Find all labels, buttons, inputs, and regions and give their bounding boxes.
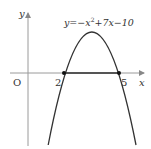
y-axis-label: y: [18, 8, 25, 19]
origin-label: O: [13, 77, 21, 88]
x-axis-label: x: [139, 77, 145, 88]
equation-label: y=−x2+7x−10: [63, 16, 134, 28]
root-label-2: 2: [55, 77, 61, 88]
root-point-2: [62, 71, 66, 75]
parabola-curve: [48, 32, 136, 145]
root-point-5: [117, 71, 121, 75]
root-label-5: 5: [121, 77, 127, 88]
graph-canvas: y x O 2 5 y=−x2+7x−10: [0, 0, 151, 149]
